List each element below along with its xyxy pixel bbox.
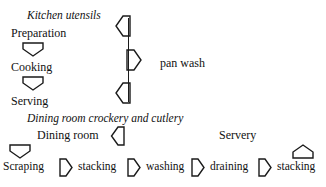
step-scraping-label: Scraping [3,161,44,173]
area-label-servery: Servery [219,129,256,141]
arrow-right-washing-to-draining [190,156,206,179]
step-stacking-2-label: stacking [277,161,315,173]
area-label-dining-room: Dining room [37,129,99,141]
step-cooking-label: Cooking [11,61,52,73]
arrow-down-cooking-to-serving [20,76,46,92]
arrow-down-into-scraping [7,144,33,160]
arrow-right-panwash-middle [125,47,145,73]
step-draining-label: draining [210,161,248,173]
arrow-right-draining-to-stacking [257,156,273,179]
kitchen-section-heading: Kitchen utensils [27,10,101,22]
arrow-right-stacking-to-washing [126,156,142,179]
pan-wash-label: pan wash [160,57,205,69]
arrow-right-scraping-to-stacking [58,156,74,179]
step-preparation-label: Preparation [11,27,66,39]
diagram-canvas: Kitchen utensils Preparation Cooking Ser… [0,0,326,187]
step-washing-label: washing [146,161,184,173]
arrow-down-preparation-to-cooking [20,42,46,58]
arrow-up-out-of-stacking [290,144,316,160]
step-stacking-1-label: stacking [78,161,116,173]
arrow-left-dining-room [108,124,126,148]
arrow-left-panwash-top [112,13,132,39]
dining-section-heading: Dining room crockery and cutlery [27,113,183,125]
arrow-left-panwash-bottom [112,80,132,106]
step-serving-label: Serving [11,95,48,107]
